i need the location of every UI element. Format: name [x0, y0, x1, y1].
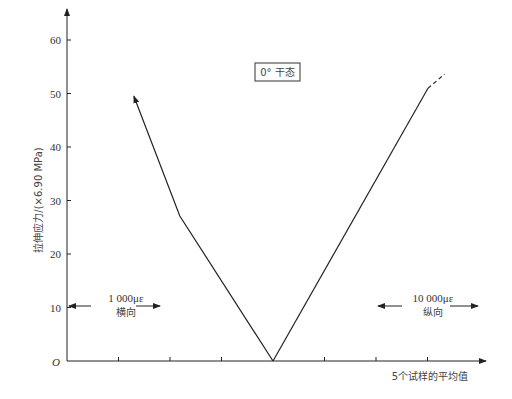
transverse-scale-direction: 横向: [116, 306, 136, 318]
y-tick-label: 60: [50, 34, 62, 46]
y-tick-label: 10: [50, 302, 62, 314]
longitudinal-scale-value: 10 000με: [413, 292, 454, 304]
y-tick-label: 30: [50, 195, 62, 207]
y-tick-label: 50: [50, 88, 62, 100]
longitudinal-curve: [273, 88, 428, 361]
y-tick-label: 40: [50, 141, 62, 153]
transverse-scale-annotation: 1 000με 横向: [69, 292, 160, 318]
x-axis-label: 5个试样的平均值: [392, 370, 468, 382]
data-series: [134, 74, 445, 361]
transverse-curve: [134, 96, 273, 361]
longitudinal-scale-annotation: 10 000με 纵向: [378, 292, 478, 318]
transverse-scale-value: 1 000με: [108, 292, 144, 304]
condition-annotation-text: 0° 干态: [260, 66, 295, 78]
longitudinal-scale-direction: 纵向: [423, 306, 443, 318]
y-axis-label: 拉伸应力/(×6.90 MPa): [32, 147, 44, 252]
condition-annotation-box: 0° 干态: [255, 63, 300, 81]
stress-strain-chart: 102030405060 O 拉伸应力/(×6.90 MPa) 5个试样的平均值…: [0, 0, 512, 399]
y-ticks: 102030405060: [50, 34, 71, 314]
y-tick-label: 20: [50, 248, 62, 260]
origin-label: O: [52, 356, 60, 368]
longitudinal-curve-extension: [428, 74, 445, 88]
